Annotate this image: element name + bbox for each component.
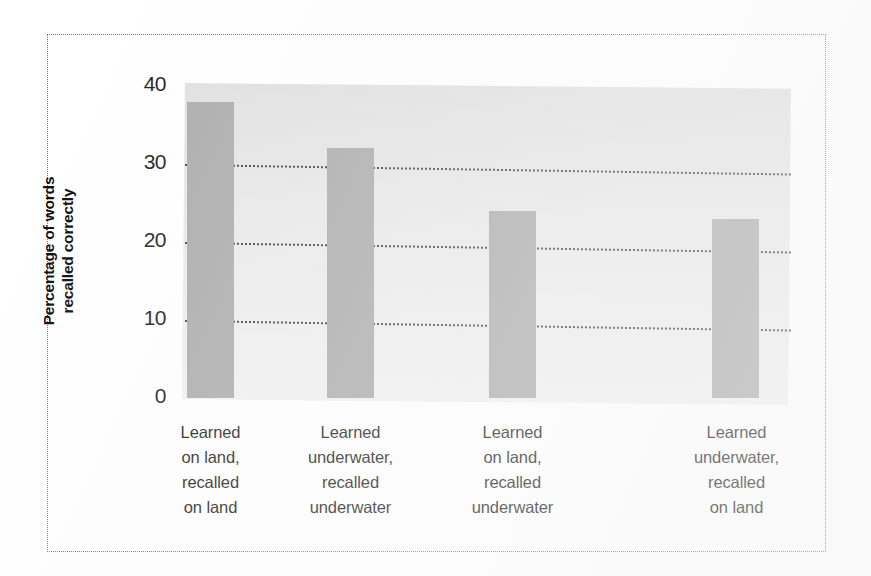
y-tick-label-0: 0 <box>124 384 166 408</box>
x-category-label-2: Learnedon land,recalledunderwater <box>430 420 595 520</box>
x-category-label-3-line-0: Learned <box>654 420 819 445</box>
bar-2 <box>489 211 536 398</box>
x-category-label-2-line-2: recalled <box>430 470 595 495</box>
x-category-label-3: Learnedunderwater,recalledon land <box>654 420 819 520</box>
y-axis-title-line-1: recalled correctly <box>58 121 77 381</box>
y-axis-title: Percentage of wordsrecalled correctly <box>39 121 77 381</box>
y-axis-title-line-0: Percentage of words <box>39 121 58 381</box>
x-category-label-3-line-3: on land <box>654 495 819 520</box>
x-category-label-2-line-3: underwater <box>430 495 595 520</box>
x-category-label-3-line-2: recalled <box>654 470 819 495</box>
y-tick-label-30: 30 <box>124 150 166 174</box>
bar-3 <box>712 219 759 398</box>
x-category-label-3-line-1: underwater, <box>654 445 819 470</box>
x-category-label-1-line-0: Learned <box>268 420 433 445</box>
x-category-label-2-line-0: Learned <box>430 420 595 445</box>
x-category-label-2-line-1: on land, <box>430 445 595 470</box>
x-category-label-1-line-2: recalled <box>268 470 433 495</box>
x-category-label-1-line-1: underwater, <box>268 445 433 470</box>
bar-1 <box>327 148 374 398</box>
y-tick-label-40: 40 <box>124 72 166 96</box>
y-tick-label-10: 10 <box>124 306 166 330</box>
x-category-label-1: Learnedunderwater,recalledunderwater <box>268 420 433 520</box>
bar-0 <box>187 102 234 398</box>
bar-chart: 010203040 Learnedon land,recalledon land… <box>0 0 871 576</box>
y-tick-label-20: 20 <box>124 228 166 252</box>
x-category-label-1-line-3: underwater <box>268 495 433 520</box>
